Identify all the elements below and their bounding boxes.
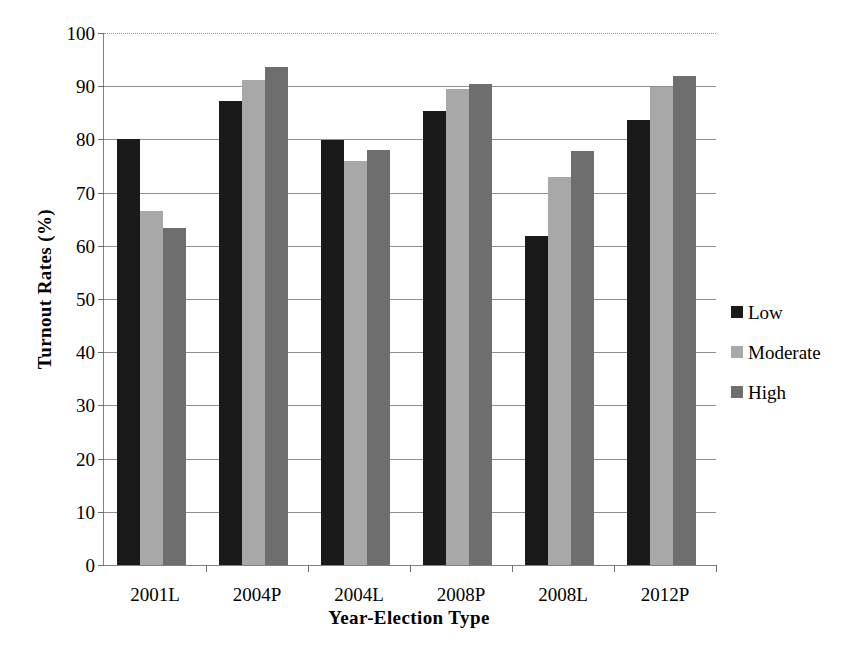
bar-low-2004p — [219, 101, 242, 565]
y-tick-label: 70 — [35, 183, 95, 202]
y-tick-label: 50 — [35, 290, 95, 309]
x-tick-mark — [512, 565, 513, 572]
bar-group — [525, 33, 594, 565]
bar-moderate-2008p — [446, 89, 469, 565]
legend-label: Moderate — [748, 343, 821, 362]
bar-group — [627, 33, 696, 565]
y-tick-label: 30 — [35, 396, 95, 415]
x-tick-mark — [716, 565, 717, 572]
x-tick-mark — [410, 565, 411, 572]
chart-legend: LowModerateHigh — [731, 292, 821, 412]
legend-item-moderate[interactable]: Moderate — [731, 332, 821, 372]
y-tick-label: 80 — [35, 130, 95, 149]
y-tick-label: 0 — [35, 556, 95, 575]
y-tick-label: 40 — [35, 343, 95, 362]
bar-low-2012p — [627, 120, 650, 565]
legend-label: High — [748, 383, 786, 402]
bar-chart-figure: Turnout Rates (%) 0102030405060708090100… — [0, 0, 863, 654]
bar-high-2001l — [163, 228, 186, 565]
bar-high-2008p — [469, 84, 492, 565]
legend-swatch-icon-moderate — [731, 346, 743, 358]
x-tick-mark — [614, 565, 615, 572]
bar-moderate-2008l — [548, 177, 571, 565]
bar-moderate-2004l — [344, 161, 367, 565]
y-tick-label: 10 — [35, 502, 95, 521]
bar-group — [117, 33, 186, 565]
bar-moderate-2004p — [242, 80, 265, 565]
bar-high-2004p — [265, 67, 288, 565]
x-tick-label-2012p: 2012P — [595, 585, 735, 604]
bar-low-2008l — [525, 236, 548, 565]
y-tick-label: 20 — [35, 449, 95, 468]
legend-swatch-icon-low — [731, 306, 743, 318]
y-tick-mark — [98, 565, 104, 566]
legend-label: Low — [748, 303, 783, 322]
bar-moderate-2001l — [140, 211, 163, 565]
bar-group — [219, 33, 288, 565]
bar-high-2012p — [673, 76, 696, 565]
bar-high-2004l — [367, 150, 390, 565]
x-tick-mark — [308, 565, 309, 572]
bar-moderate-2012p — [650, 87, 673, 565]
bar-series-container — [104, 33, 716, 565]
bar-high-2008l — [571, 151, 594, 565]
x-axis-title: Year-Election Type — [103, 607, 715, 629]
legend-item-high[interactable]: High — [731, 372, 821, 412]
y-tick-label: 60 — [35, 236, 95, 255]
y-tick-label: 90 — [35, 77, 95, 96]
plot-area: 0102030405060708090100 2001L2004P2004L20… — [103, 33, 716, 566]
bar-group — [321, 33, 390, 565]
legend-swatch-icon-high — [731, 386, 743, 398]
bar-group — [423, 33, 492, 565]
legend-item-low[interactable]: Low — [731, 292, 821, 332]
y-tick-label: 100 — [35, 24, 95, 43]
bar-low-2004l — [321, 140, 344, 565]
bar-low-2001l — [117, 139, 140, 565]
bar-low-2008p — [423, 111, 446, 565]
x-tick-mark — [206, 565, 207, 572]
